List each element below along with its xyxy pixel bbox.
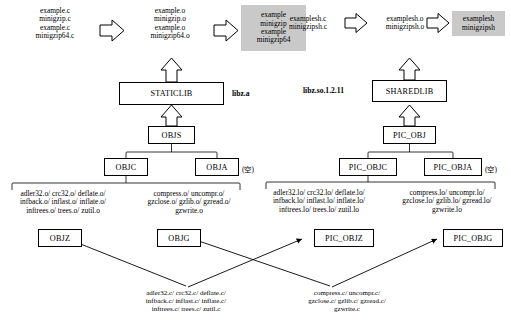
block-arrow-shared-compile [345,14,367,33]
sharedlib-box[interactable]: SHAREDLIB [372,80,447,102]
hollow-arrow-objs-to-staticlib [161,105,182,126]
obja-empty-note: (空) [242,163,254,174]
objc-box[interactable]: OBJC [104,158,148,176]
objg-label: OBJG [168,234,189,243]
picobjc-box[interactable]: PIC_OBJC [339,158,397,176]
libz-a-label: libz.a [232,89,250,98]
picobjz-box[interactable]: PIC_OBJZ [314,229,374,247]
sharedlib-label: SHAREDLIB [386,87,434,96]
picobjg-files-list: compress.lo/ uncompr.lo/ gzclose.lo/ gzl… [385,189,509,214]
diagram-canvas: example.c minigzip.c example.c minigzip6… [0,0,511,334]
picobjz-files-list: adler32.lo/ crc32.lo/ deflate.lo/ infbac… [255,189,383,214]
objz-label: OBJZ [50,234,70,243]
picobjg-box[interactable]: PIC_OBJG [443,229,503,247]
objz-files-list: adler32.o/ crc32.o/ deflate.o/ infback.o… [0,190,126,215]
objs-label: OBJS [162,131,182,140]
picobja-label: PIC_OBJA [434,163,473,172]
hollow-arrow-picobj-to-sharedlib [399,105,420,126]
objc-label: OBJC [116,163,137,172]
shared-objects-list: examplesh.o minigzipsh.o [367,15,443,32]
arrow-srcg-to-objg [190,238,330,286]
bracket-picobj-children [368,144,453,158]
objg-files-list: compress.o/ uncompr.o/ gzclose.o/ gzlib.… [130,190,248,215]
staticlib-label: STATICLIB [150,89,192,98]
picobjg-label: PIC_OBJG [454,234,493,243]
objs-box[interactable]: OBJS [148,126,195,144]
picobja-empty-note: (空) [485,163,497,174]
obja-box[interactable]: OBJA [195,158,239,176]
staticlib-box[interactable]: STATICLIB [119,82,224,105]
bracket-objc-children [12,176,240,190]
objz-sources-list: adler32.c/ crc32.c/ deflate.c/ infback.c… [120,290,252,313]
static-sources-list: example.c minigzip.c example.c minigzip6… [10,7,100,40]
hollow-arrow-sharedlib-to-objects [399,58,420,80]
libz-so-label: libz.so.1.2.11 [303,86,344,95]
picobjc-label: PIC_OBJC [349,163,387,172]
shared-binaries-box: examplesh minigzipsh [452,11,505,36]
arrow-srcz-to-picobjz [188,239,302,287]
objg-sources-list: compress.c/ uncompr.c/ gzclose.c/ gzlib.… [282,290,412,313]
bracket-objs-children [126,144,217,158]
block-arrow-static-link [214,20,238,41]
block-arrow-static-compile [100,20,124,41]
picobja-box[interactable]: PIC_OBJA [424,158,482,176]
picobj-box[interactable]: PIC_OBJ [383,126,436,144]
objg-box[interactable]: OBJG [157,229,201,247]
objz-box[interactable]: OBJZ [38,229,82,247]
static-objects-list: example.o minigzip.o example.o minigzip6… [124,7,216,40]
picobj-label: PIC_OBJ [393,131,426,140]
hollow-arrow-staticlib-to-objects [161,58,182,82]
shared-binaries-list: examplesh minigzipsh [462,15,495,32]
shared-sources-list: examplesh.c minigzipsh.c [270,15,346,32]
picobjz-label: PIC_OBJZ [325,234,363,243]
obja-label: OBJA [206,163,227,172]
